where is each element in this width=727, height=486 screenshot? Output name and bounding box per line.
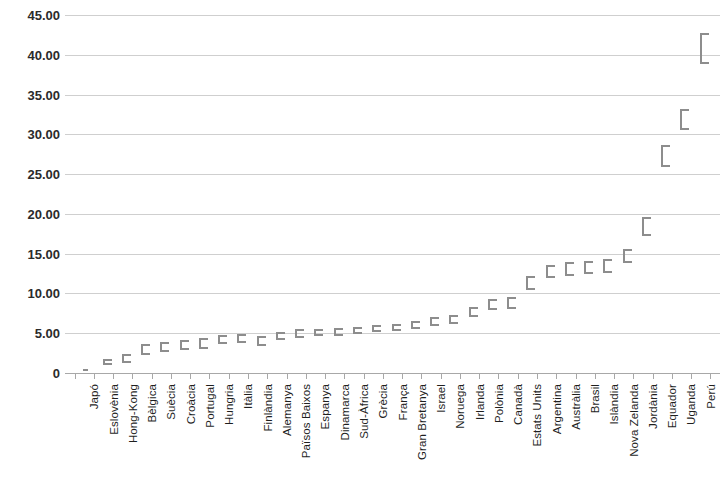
marker-cap-bottom [430, 324, 439, 326]
marker-cap-bottom [218, 342, 227, 344]
chart-container: 05.0010.0015.0020.0025.0030.0035.0040.00… [0, 0, 727, 486]
marker-cap-top [623, 249, 632, 251]
y-tick-label: 25.00 [2, 168, 60, 181]
marker-cap-top [411, 321, 420, 323]
marker-cap-bottom [546, 276, 555, 278]
x-tick [518, 373, 519, 379]
x-tick [537, 373, 538, 379]
gridline [65, 134, 720, 135]
x-tick [287, 373, 288, 379]
marker-cap-top [680, 109, 689, 111]
marker-cap-bottom [507, 307, 516, 309]
x-tick [633, 373, 634, 379]
marker-cap-bottom [411, 327, 420, 329]
marker-cap-top [122, 354, 131, 356]
x-tick [171, 373, 172, 379]
marker-cap-top [160, 342, 169, 344]
x-tick [498, 373, 499, 379]
marker-cap-bottom [141, 353, 150, 355]
marker-cap-bottom [661, 165, 670, 167]
x-tick [421, 373, 422, 379]
marker-stem [661, 145, 663, 167]
marker-cap-bottom [565, 274, 574, 276]
marker-cap-top [642, 217, 651, 219]
x-tick [460, 373, 461, 379]
x-tick-label: Japó [89, 384, 101, 409]
y-tick-label: 30.00 [2, 128, 60, 141]
marker-cap-top [199, 338, 208, 340]
x-tick-label: Estats Units [532, 384, 544, 447]
x-tick-label: Perú [706, 384, 718, 409]
marker-cap-top [661, 145, 670, 147]
x-tick [209, 373, 210, 379]
marker-cap-top [257, 336, 266, 338]
marker-cap-top [218, 335, 227, 337]
x-tick-label: Canadà [513, 384, 525, 425]
marker-cap-top [584, 261, 593, 263]
x-tick-label: Grècia [378, 384, 390, 418]
x-tick [576, 373, 577, 379]
marker-cap-bottom [700, 62, 709, 64]
x-axis-line [65, 373, 720, 374]
marker-cap-top [276, 332, 285, 334]
x-tick-label: Irlanda [475, 384, 487, 420]
x-tick-label: Alemanya [282, 384, 294, 436]
x-tick [691, 373, 692, 379]
marker-cap-bottom [449, 322, 458, 324]
marker-cap-bottom [122, 361, 131, 363]
x-tick-label: Uganda [686, 384, 698, 425]
x-tick [383, 373, 384, 379]
x-tick [614, 373, 615, 379]
marker-cap-bottom [257, 344, 266, 346]
marker-cap-top [469, 307, 478, 309]
x-tick [113, 373, 114, 379]
marker-cap-top [103, 359, 112, 361]
x-tick [402, 373, 403, 379]
marker-cap-top [449, 315, 458, 317]
marker-cap-bottom [469, 315, 478, 317]
x-tick-label: Hungria [224, 384, 236, 425]
x-tick [267, 373, 268, 379]
marker-cap-bottom [353, 332, 362, 334]
marker-cap-top [565, 262, 574, 264]
x-tick-label: Argentina [552, 384, 564, 434]
marker-cap-bottom [372, 330, 381, 332]
marker-cap-bottom [314, 334, 323, 336]
marker-cap-bottom [83, 369, 88, 371]
x-tick-label: Espanya [320, 384, 332, 429]
x-tick-label: Noruega [455, 384, 467, 429]
x-tick [325, 373, 326, 379]
x-tick-label: Itàlia [243, 384, 255, 409]
gridline [65, 15, 720, 16]
x-tick-label: Dinamarca [340, 384, 352, 441]
marker-cap-bottom [623, 261, 632, 263]
x-tick [710, 373, 711, 379]
x-tick [190, 373, 191, 379]
x-tick [556, 373, 557, 379]
x-tick [364, 373, 365, 379]
x-tick [479, 373, 480, 379]
x-tick-label: Austràlia [571, 384, 583, 430]
marker-cap-bottom [103, 363, 112, 365]
x-tick-label: Finlàndia [263, 384, 275, 432]
x-tick-label: Països Baixos [301, 384, 313, 458]
x-tick-label: Polònia [494, 384, 506, 423]
x-tick-label: França [398, 384, 410, 420]
x-tick [152, 373, 153, 379]
x-tick-label: Gran Bretanya [417, 384, 429, 460]
gridline [65, 95, 720, 96]
marker-cap-top [526, 276, 535, 278]
x-tick-label: Brasil [590, 384, 602, 413]
marker-cap-bottom [180, 348, 189, 350]
marker-cap-top [430, 317, 439, 319]
plot-area [65, 15, 720, 373]
x-tick-label: Portugal [205, 384, 217, 428]
marker-cap-bottom [642, 234, 651, 236]
x-tick-label: Eslovènia [109, 384, 121, 435]
x-tick [94, 373, 95, 379]
marker-cap-bottom [295, 336, 304, 338]
marker-cap-top [180, 340, 189, 342]
marker-cap-top [314, 329, 323, 331]
marker-cap-bottom [488, 308, 497, 310]
x-tick-label: Bèlgica [147, 384, 159, 422]
